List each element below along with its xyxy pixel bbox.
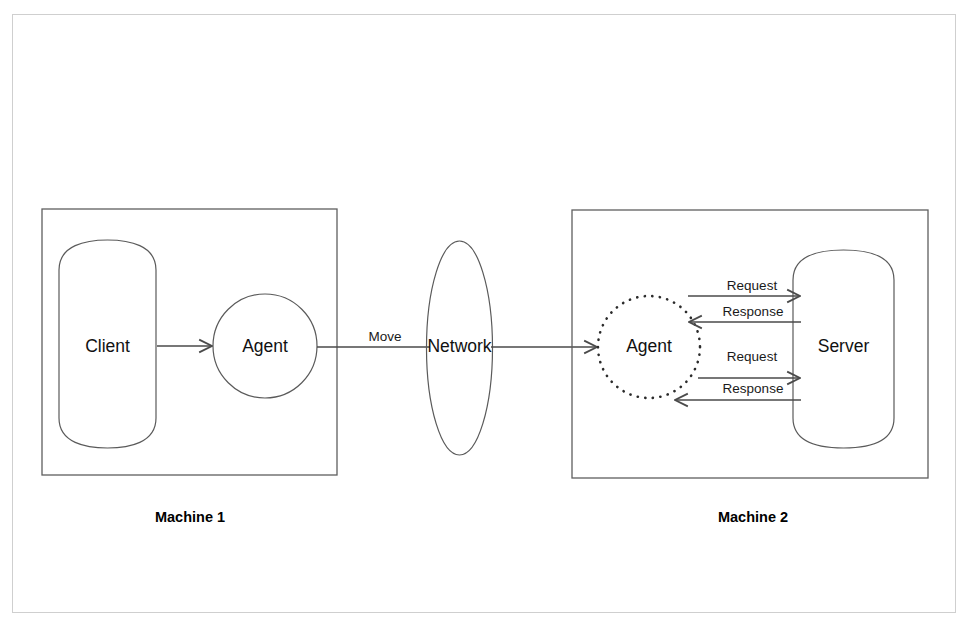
agent-label-machine-1: Agent — [242, 336, 288, 356]
edge-request-1-label: Request — [727, 278, 778, 293]
diagram-canvas: Client Agent Machine 1 Move Network Agen… — [0, 0, 973, 631]
page-frame — [13, 15, 956, 613]
network-label: Network — [427, 336, 491, 356]
machine-2-group: Agent Server Request Response Request Re… — [572, 210, 928, 525]
server-label: Server — [818, 336, 870, 356]
edge-response-1-label: Response — [723, 304, 784, 319]
agent-label-machine-2: Agent — [626, 336, 672, 356]
network-group: Move Network — [317, 241, 597, 455]
machine-1-caption: Machine 1 — [155, 509, 225, 525]
machine-1-group: Client Agent Machine 1 — [42, 209, 337, 525]
move-label: Move — [368, 329, 401, 344]
edge-response-2-label: Response — [723, 381, 784, 396]
client-label: Client — [85, 336, 130, 356]
machine-2-caption: Machine 2 — [718, 509, 788, 525]
diagram-page: Client Agent Machine 1 Move Network Agen… — [0, 0, 973, 631]
edge-request-2-label: Request — [727, 349, 778, 364]
